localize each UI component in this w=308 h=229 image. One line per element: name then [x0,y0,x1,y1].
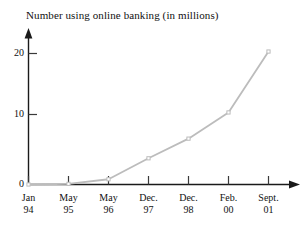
data-point-1 [67,182,70,185]
y-axis-arrowhead [25,28,33,39]
data-point-4 [187,137,190,140]
data-point-3 [147,157,150,160]
y-tick-label-20: 20 [2,48,24,58]
data-point-0 [27,183,30,186]
x-axis-arrowhead [289,180,300,188]
data-point-5 [227,111,230,114]
data-point-2 [107,178,110,181]
y-tick-label-10: 10 [2,109,24,119]
chart-figure: Number using online banking (in millions… [0,0,308,229]
x-tick-label-6: Sept. 01 [246,192,292,215]
y-tick-label-0: 0 [2,179,24,189]
data-point-6 [267,50,270,53]
y-axis-ticks [29,54,38,115]
data-series-markers [27,50,270,186]
data-series-line [29,52,269,185]
